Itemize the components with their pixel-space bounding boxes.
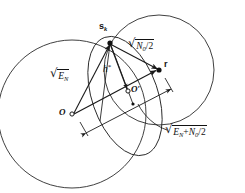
label-point-sk: sk	[99, 22, 107, 33]
dimension-tick-start	[80, 122, 88, 136]
point-marker-O	[70, 112, 74, 116]
label-sqrt-N0-denom: /2	[146, 41, 153, 51]
label-sqrt-EN-plus-N0-over-2: √ EN+N0/2	[165, 125, 207, 140]
segment-O-to-r	[74, 71, 156, 115]
label-sum-denom: /2	[198, 127, 205, 137]
label-sqrt-N0-over-2-body: N0/2	[135, 39, 154, 54]
point-marker-small-circle-center	[131, 102, 134, 105]
label-h-star: h*	[103, 64, 111, 75]
point-marker-sk	[107, 40, 112, 45]
label-sqrt-EN: √ EN	[50, 69, 69, 84]
segment-O-to-sk	[74, 45, 110, 113]
label-point-r: r	[164, 60, 168, 69]
small-circle-through-sk-and-Oprime	[74, 27, 177, 166]
label-h-star-sup: *	[108, 63, 112, 71]
label-point-sk-sub: k	[104, 25, 107, 32]
point-marker-r	[156, 67, 161, 72]
label-sqrt-N0-over-2: √ N0/2	[128, 39, 154, 54]
label-sqrt-EN-plus-N0-body: EN+N0/2	[172, 125, 207, 140]
diagram-canvas	[0, 0, 245, 193]
point-marker-O-prime	[126, 89, 130, 93]
segment-sk-chord-left	[100, 44, 110, 121]
label-sqrt-EN-body: EN	[57, 69, 69, 84]
label-sqrt-EN-sub: N	[64, 75, 68, 82]
label-point-O-prime: O′	[131, 85, 140, 94]
signal-space-diagram: sk r O O′ h* √ EN √ N0/2 √ EN+N0/2	[0, 0, 245, 193]
label-point-O: O	[59, 108, 66, 117]
